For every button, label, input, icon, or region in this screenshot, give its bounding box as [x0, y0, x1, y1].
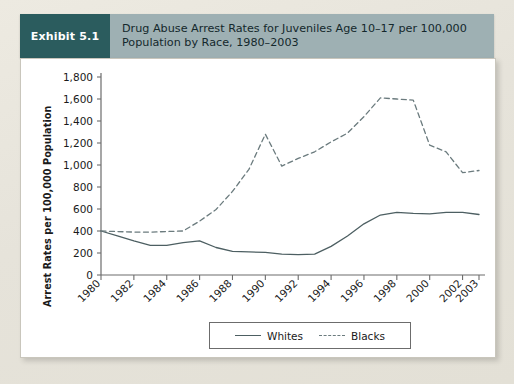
y-tick-label: 1,000: [63, 159, 93, 171]
exhibit-figure: Exhibit 5.1 Drug Abuse Arrest Rates for …: [0, 0, 514, 384]
exhibit-title-text: Drug Abuse Arrest Rates for Juveniles Ag…: [122, 22, 486, 50]
x-tick-label: 1982: [108, 277, 135, 304]
x-tick-label: 1988: [207, 277, 234, 304]
y-tick-label: 400: [73, 225, 93, 237]
x-tick-label: 1984: [141, 277, 169, 305]
y-tick-label: 200: [73, 247, 93, 259]
x-axis-ticks: 1980198219841986198819901992199419961998…: [75, 275, 480, 304]
x-tick-label: 1994: [305, 277, 333, 305]
series-line-whites: [101, 212, 479, 254]
chart-legend: Whites Blacks: [209, 322, 411, 349]
legend-label-whites: Whites: [267, 330, 303, 342]
exhibit-header: Exhibit 5.1 Drug Abuse Arrest Rates for …: [20, 14, 494, 58]
y-tick-label: 1,600: [63, 93, 93, 105]
chart-panel: Arrest Rates per 100,000 Population 0200…: [20, 58, 496, 358]
y-tick-label: 800: [73, 181, 93, 193]
y-axis-ticks: 02004006008001,0001,2001,4001,6001,800: [63, 71, 101, 281]
x-tick-label: 1980: [75, 277, 102, 304]
line-chart-svg: 02004006008001,0001,2001,4001,6001,800 1…: [21, 59, 495, 357]
series-line-blacks: [101, 98, 479, 232]
x-tick-label: 1996: [338, 277, 366, 305]
x-tick-label: 1998: [371, 277, 398, 304]
x-tick-label: 1990: [239, 277, 266, 304]
chart-area: Arrest Rates per 100,000 Population 0200…: [21, 59, 495, 357]
x-tick-label: 1986: [174, 277, 202, 305]
y-tick-label: 1,800: [63, 71, 93, 83]
x-tick-label: 1992: [272, 277, 299, 304]
legend-item-whites: Whites: [235, 330, 303, 342]
exhibit-tag-label: Exhibit 5.1: [31, 30, 100, 43]
exhibit-title: Drug Abuse Arrest Rates for Juveniles Ag…: [110, 14, 494, 58]
y-tick-label: 1,400: [63, 115, 93, 127]
legend-item-blacks: Blacks: [319, 330, 385, 342]
y-tick-label: 1,200: [63, 137, 93, 149]
legend-swatch-dashed-icon: [319, 335, 345, 336]
y-tick-label: 600: [73, 203, 93, 215]
legend-label-blacks: Blacks: [351, 330, 385, 342]
legend-swatch-solid-icon: [235, 335, 261, 336]
exhibit-tag: Exhibit 5.1: [20, 14, 110, 58]
x-tick-label: 2000: [404, 277, 431, 304]
